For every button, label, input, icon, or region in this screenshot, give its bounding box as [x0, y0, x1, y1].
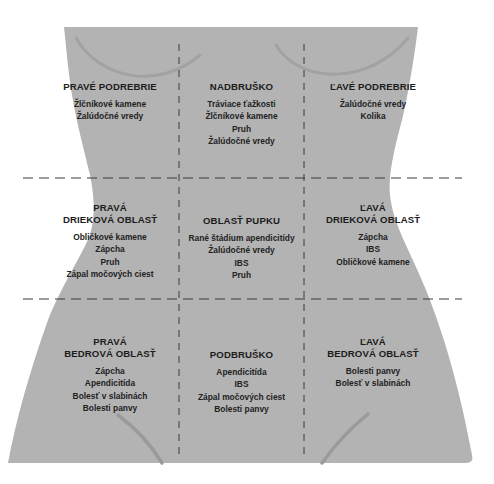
- condition-item: Žlčníkové kamene: [74, 98, 146, 110]
- region-right-hypochondriac: PRAVÉ PODREBRIE Žlčníkové kamene Žalúdoč…: [50, 81, 170, 123]
- condition-item: Žalúdočné vredy: [208, 135, 275, 147]
- condition-item: IBS: [366, 243, 380, 255]
- region-title: PRAVÁ DRIEKOVÁ OBLASŤ: [50, 202, 170, 226]
- region-title: OBLASŤ PUPKU: [180, 215, 303, 227]
- region-title: ĽAVÁ DRIEKOVÁ OBLASŤ: [313, 202, 433, 226]
- condition-item: Žalúdočné vredy: [77, 110, 144, 122]
- condition-item: Kolika: [360, 110, 385, 122]
- condition-item: Pruh: [232, 269, 251, 281]
- condition-item: Bolesť v slabinách: [73, 390, 148, 402]
- region-title: PRAVÁ BEDROVÁ OBLASŤ: [50, 336, 170, 360]
- condition-item: Obličkové kamene: [336, 256, 410, 268]
- condition-item: Žalúdočné vredy: [208, 244, 275, 256]
- condition-item: Apendicitída: [85, 377, 135, 389]
- condition-item: Žlčníkové kamene: [205, 110, 277, 122]
- region-hypogastric: PODBRUŠKO Apendicitída IBS Zápal močovýc…: [180, 349, 303, 416]
- condition-item: Obličkové kamene: [73, 231, 147, 243]
- region-title: ĽAVÁ BEDROVÁ OBLASŤ: [313, 336, 433, 360]
- condition-item: IBS: [235, 257, 249, 269]
- region-right-iliac: PRAVÁ BEDROVÁ OBLASŤ Zápcha Apendicitída…: [50, 336, 170, 415]
- region-epigastric: NADBRUŠKO Tráviace ťažkosti Žlčníkové ka…: [180, 81, 303, 148]
- condition-item: Rané štádium apendicitídy: [188, 232, 294, 244]
- condition-item: Zápal močových ciest: [66, 268, 153, 280]
- region-left-iliac: ĽAVÁ BEDROVÁ OBLASŤ Bolesti panvy Bolesť…: [313, 336, 433, 390]
- condition-item: Bolesti panvy: [346, 365, 400, 377]
- condition-item: Zápcha: [358, 231, 387, 243]
- region-title: PRAVÉ PODREBRIE: [50, 81, 170, 93]
- condition-item: Zápal močových ciest: [198, 391, 285, 403]
- region-title: PODBRUŠKO: [180, 349, 303, 361]
- condition-item: Tráviace ťažkosti: [207, 98, 275, 110]
- condition-item: Pruh: [100, 256, 119, 268]
- condition-item: Pruh: [232, 123, 251, 135]
- condition-item: Bolesť v slabinách: [336, 377, 411, 389]
- condition-item: Žalúdočné vredy: [340, 98, 407, 110]
- region-title: ĽAVÉ PODREBRIE: [313, 81, 433, 93]
- condition-item: Apendicitída: [216, 366, 266, 378]
- condition-item: Zápcha: [95, 243, 124, 255]
- condition-item: Bolesti panvy: [214, 403, 268, 415]
- region-right-lumbar: PRAVÁ DRIEKOVÁ OBLASŤ Obličkové kamene Z…: [50, 202, 170, 281]
- region-left-hypochondriac: ĽAVÉ PODREBRIE Žalúdočné vredy Kolika: [313, 81, 433, 123]
- condition-item: Bolesti panvy: [83, 402, 137, 414]
- region-umbilical: OBLASŤ PUPKU Rané štádium apendicitídy Ž…: [180, 215, 303, 282]
- region-title: NADBRUŠKO: [180, 81, 303, 93]
- condition-item: Zápcha: [95, 365, 124, 377]
- region-left-lumbar: ĽAVÁ DRIEKOVÁ OBLASŤ Zápcha IBS Obličkov…: [313, 202, 433, 268]
- condition-item: IBS: [235, 378, 249, 390]
